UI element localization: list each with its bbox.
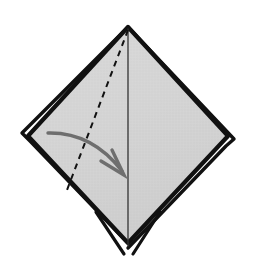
origami-diagram-figure: Origami fold diagram Diamond-shaped fold…: [0, 0, 253, 263]
origami-illustration: [0, 0, 253, 263]
